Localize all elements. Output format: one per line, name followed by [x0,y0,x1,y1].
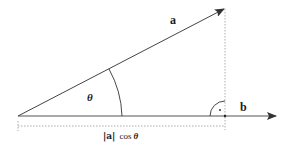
theta-text: θ [133,131,138,141]
projection-foot-dot [224,115,226,117]
angle-theta-arc [109,69,122,116]
angle-theta-label: θ [87,92,93,103]
vector-a-label: a [170,14,176,26]
vector-b-label: b [240,101,247,113]
right-angle-dot [219,109,221,111]
right-angle-arc [210,101,225,116]
cos-text: cos [119,131,131,141]
projection-diagram [0,0,296,151]
projection-length-label: |a|cosθ [103,132,138,141]
vector-a-line [18,9,224,116]
magnitude-a-text: |a| [103,131,115,141]
